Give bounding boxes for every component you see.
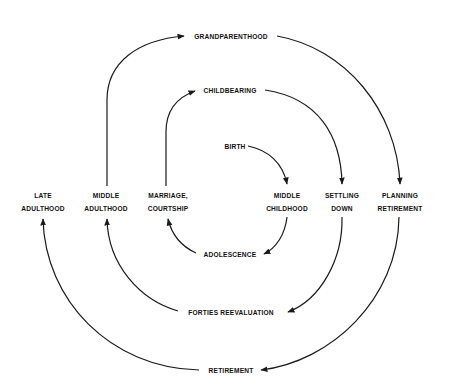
- node-middle-childhood: MIDDLE CHILDHOOD: [266, 189, 308, 215]
- node-marriage-courtship-line-2: COURTSHIP: [148, 202, 189, 215]
- arrow-retirement-to-late-adulthood: [43, 219, 199, 370]
- node-retirement: RETIREMENT: [209, 364, 254, 377]
- arrow-birth-to-middle-childhood: [248, 146, 287, 184]
- arrow-planning-retirement-to-retirement: [261, 217, 399, 370]
- node-birth: BIRTH: [224, 140, 245, 153]
- arrow-forties-to-middle-adulthood: [107, 219, 178, 311]
- arrow-settling-down-to-forties: [288, 217, 342, 312]
- node-planning-retirement-line-1: PLANNING: [378, 189, 423, 202]
- node-grandparenthood: GRANDPARENTHOOD: [194, 30, 268, 43]
- node-settling-down-line-2: DOWN: [325, 202, 359, 215]
- arrow-grandparenthood-to-planning-retirement: [277, 36, 400, 184]
- arrow-middle-childhood-to-adolescence: [264, 217, 287, 254]
- node-middle-childhood-line-2: CHILDHOOD: [266, 202, 308, 215]
- node-forties-reevaluation: FORTIES REEVALUATION: [188, 306, 273, 319]
- node-middle-adulthood: MIDDLE ADULTHOOD: [84, 189, 127, 215]
- arrow-middle-adulthood-to-grandparenthood: [107, 36, 184, 186]
- node-childbearing: CHILDBEARING: [204, 84, 257, 97]
- node-late-adulthood-line-2: ADULTHOOD: [21, 202, 64, 215]
- node-adolescence: ADOLESCENCE: [204, 248, 257, 261]
- node-marriage-courtship: MARRIAGE, COURTSHIP: [148, 189, 189, 215]
- arrow-marriage-to-childbearing: [166, 91, 195, 186]
- node-planning-retirement-line-2: RETIREMENT: [378, 202, 423, 215]
- life-cycle-spiral-diagram: GRANDPARENTHOOD CHILDBEARING BIRTH LATE …: [0, 0, 450, 392]
- node-middle-adulthood-line-1: MIDDLE: [84, 189, 127, 202]
- node-late-adulthood-line-1: LATE: [21, 189, 64, 202]
- node-middle-adulthood-line-2: ADULTHOOD: [84, 202, 127, 215]
- node-middle-childhood-line-1: MIDDLE: [266, 189, 308, 202]
- node-settling-down: SETTLING DOWN: [325, 189, 359, 215]
- arrow-childbearing-to-settling-down: [265, 90, 342, 184]
- arrow-adolescence-to-marriage: [168, 219, 196, 253]
- node-late-adulthood: LATE ADULTHOOD: [21, 189, 64, 215]
- node-marriage-courtship-line-1: MARRIAGE,: [148, 189, 189, 202]
- node-planning-retirement: PLANNING RETIREMENT: [378, 189, 423, 215]
- node-settling-down-line-1: SETTLING: [325, 189, 359, 202]
